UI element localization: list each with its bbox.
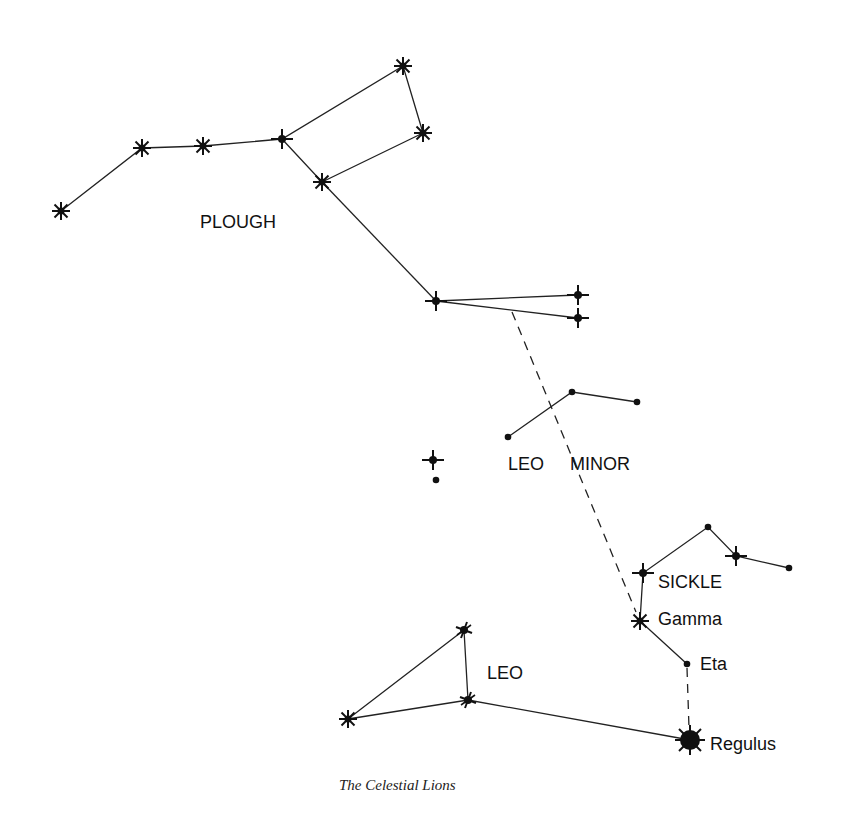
star-asterisk-icon: [133, 139, 151, 157]
star-asterisk-icon: [339, 710, 357, 728]
star-chart: [0, 0, 846, 819]
leo-line: [348, 630, 690, 740]
star-cross-icon: [425, 291, 447, 311]
sickle-line: [640, 527, 789, 664]
star-cross-icon: [725, 546, 747, 566]
star-regulus-icon: [675, 725, 705, 755]
plough-line: [322, 182, 436, 301]
star-dot-icon: [505, 434, 512, 441]
plough-pointer-line-upper: [436, 295, 578, 301]
eta-regulus-dashed-line: [687, 668, 689, 728]
star-dot-icon: [786, 565, 793, 572]
leo-stars: [339, 622, 476, 728]
star-asterisk-icon: [414, 124, 432, 142]
star-dot-icon: [705, 524, 712, 531]
leo-label: LEO: [487, 663, 523, 684]
constellation-lines: [61, 66, 789, 740]
sickle-label: SICKLE: [658, 572, 722, 593]
star-eta-icon: [684, 661, 691, 668]
isolated-stars: [422, 450, 444, 483]
star-cross-icon: [632, 563, 654, 583]
plough-pointer-line-lower: [436, 301, 578, 318]
star-asterisk-icon: [394, 57, 412, 75]
leo-minor-stars: [505, 389, 641, 441]
star-cross-icon: [567, 308, 589, 328]
star-dot-icon: [634, 399, 641, 406]
star-dot-icon: [569, 389, 576, 396]
figure-caption: The Celestial Lions: [339, 777, 456, 794]
star-cross-icon: [422, 450, 444, 470]
star-gamma-icon: [631, 612, 649, 630]
leo-minor-label-minor: MINOR: [570, 454, 630, 475]
eta-label: Eta: [700, 654, 727, 675]
dashed-guide-lines: [512, 312, 689, 728]
star-asterisk-icon: [52, 202, 70, 220]
star-asterisk-icon: [194, 137, 212, 155]
star-cross-icon: [567, 285, 589, 305]
leo-minor-line: [508, 392, 637, 437]
regulus-label: Regulus: [710, 734, 776, 755]
star-dot-icon: [433, 477, 440, 484]
leo-minor-label-leo: LEO: [508, 454, 544, 475]
plough-stars: [52, 57, 589, 328]
gamma-label: Gamma: [658, 609, 722, 630]
star-cross-icon: [271, 129, 293, 149]
sickle-stars: [631, 524, 792, 755]
plough-label: PLOUGH: [200, 212, 276, 233]
plough-handle-line: [61, 66, 423, 211]
star-asterisk-icon: [313, 173, 331, 191]
